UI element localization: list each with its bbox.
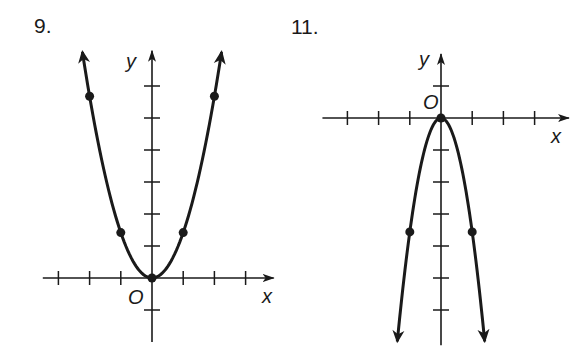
data-point xyxy=(437,114,446,123)
data-point xyxy=(148,274,157,283)
graphs-canvas: y x O y x O xyxy=(0,0,572,363)
graph-9-x-label: x xyxy=(261,285,273,307)
graph-11-y-label: y xyxy=(417,48,430,70)
graph-11-origin-label: O xyxy=(423,91,439,113)
data-point xyxy=(85,92,94,101)
data-point xyxy=(468,227,477,236)
data-point xyxy=(405,227,414,236)
graph-9: y x O xyxy=(43,49,274,342)
graph-9-origin-label: O xyxy=(128,286,144,308)
data-point xyxy=(179,228,188,237)
data-point xyxy=(116,228,125,237)
data-point xyxy=(210,92,219,101)
graph-11-axes xyxy=(322,54,568,345)
graph-11: y x O xyxy=(322,48,568,345)
graph-9-y-label: y xyxy=(124,50,137,72)
graph-11-x-label: x xyxy=(550,125,562,147)
graph-9-axes xyxy=(43,51,274,342)
